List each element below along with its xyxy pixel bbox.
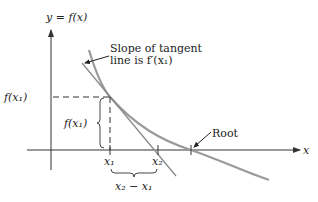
tangent-annotation-arrow: [85, 56, 109, 63]
tangent-annotation-line2: line is f′(x₁): [110, 54, 173, 67]
x2-tick-label: x₂: [152, 155, 163, 168]
function-curve: [89, 50, 269, 180]
x1-tick-label: x₁: [104, 155, 115, 168]
vertical-brace: [97, 98, 104, 148]
y-axis-label: y = f(x): [45, 11, 87, 24]
fx1-axis-label: f(x₁): [3, 91, 27, 104]
fx1-brace-label: f(x₁): [63, 117, 87, 130]
root-annotation-arrow: [194, 132, 211, 147]
x-axis-label: x: [303, 144, 310, 157]
x2-minus-x1-label: x₂ − x₁: [115, 180, 152, 193]
newton-method-diagram: y = f(x) x f(x₁) f(x₁) x₁ x₂ x₂ − x₁ Slo…: [0, 0, 318, 202]
root-annotation-label: Root: [212, 127, 239, 140]
horizontal-brace: [111, 169, 157, 177]
